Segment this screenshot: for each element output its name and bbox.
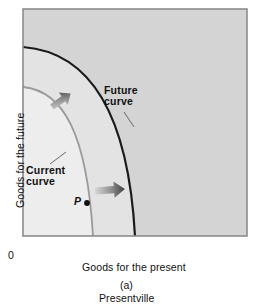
figure-panel-a: Goods for the future Goods for the prese… bbox=[0, 0, 258, 306]
y-axis-label: Goods for the future bbox=[15, 113, 26, 208]
origin-label: 0 bbox=[8, 250, 14, 261]
future-curve-label-line2: curve bbox=[104, 96, 138, 107]
future-curve-label: Future curve bbox=[104, 85, 138, 108]
current-curve-label-line2: curve bbox=[26, 176, 65, 187]
point-p-label: P bbox=[74, 196, 81, 207]
x-axis-label: Goods for the present bbox=[82, 262, 186, 273]
point-p-marker bbox=[84, 200, 90, 206]
panel-letter: (a) bbox=[120, 280, 133, 291]
current-curve-label: Current curve bbox=[26, 165, 65, 188]
panel-caption: Presentville bbox=[99, 293, 154, 304]
